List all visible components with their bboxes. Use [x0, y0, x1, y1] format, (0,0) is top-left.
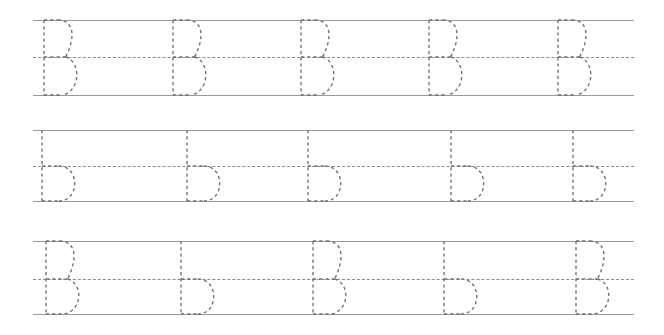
trace-letter-lowercase-b-r3c4[interactable]	[443, 241, 485, 316]
trace-letter-uppercase-B-r3c1[interactable]	[45, 241, 85, 316]
row-mixed-b	[0, 0, 664, 335]
trace-letter-uppercase-B-r3c5[interactable]	[575, 241, 615, 316]
tracing-worksheet	[0, 0, 664, 335]
glyph-outline-B	[312, 241, 352, 316]
glyph-outline-B	[45, 241, 85, 316]
trace-letter-uppercase-B-r3c3[interactable]	[312, 241, 352, 316]
trace-letter-lowercase-b-r3c2[interactable]	[180, 241, 222, 316]
glyph-outline-b	[180, 241, 222, 316]
glyph-outline-B	[575, 241, 615, 316]
glyph-outline-b	[443, 241, 485, 316]
